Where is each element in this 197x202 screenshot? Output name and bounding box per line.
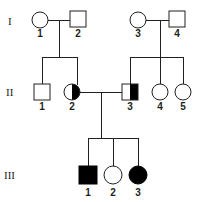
circle-symbol-unaffected — [130, 12, 146, 28]
square-symbol-affected — [79, 166, 97, 184]
individual-number-label: 3 — [135, 28, 141, 39]
circle-symbol-unaffected — [32, 12, 48, 28]
individual-i-2[interactable]: 2 — [70, 11, 86, 39]
circle-symbol-unaffected — [175, 84, 191, 100]
circle-symbol-unaffected — [104, 166, 122, 184]
circle-half-fill-carrier — [72, 84, 80, 100]
generation-label-ii: II — [6, 86, 14, 98]
individual-ii-5[interactable]: 5 — [175, 84, 191, 112]
pedigree-diagram: I II III 1 2 3 4 1 2 — [0, 0, 197, 202]
circle-symbol-affected — [129, 166, 147, 184]
generation-label-iii: III — [4, 169, 15, 181]
individual-number-label: 2 — [75, 28, 81, 39]
circle-symbol-unaffected — [152, 84, 168, 100]
pedigree-chart: I II III 1 2 3 4 1 2 — [0, 0, 197, 202]
square-symbol-unaffected — [70, 11, 86, 27]
generation-label-i: I — [8, 15, 12, 27]
individual-i-1[interactable]: 1 — [32, 12, 48, 39]
individual-i-3[interactable]: 3 — [130, 12, 146, 39]
individual-number-label: 1 — [39, 101, 45, 112]
square-half-fill-carrier — [130, 84, 138, 100]
individual-ii-4[interactable]: 4 — [152, 84, 168, 112]
individual-ii-1[interactable]: 1 — [34, 84, 50, 112]
individual-number-label: 2 — [110, 187, 116, 198]
individual-ii-2[interactable]: 2 — [64, 84, 80, 112]
individual-iii-3[interactable]: 3 — [129, 166, 147, 198]
individual-iii-1[interactable]: 1 — [79, 166, 97, 198]
individual-number-label: 3 — [127, 101, 133, 112]
individual-number-label: 4 — [174, 28, 180, 39]
individual-number-label: 1 — [85, 187, 91, 198]
square-symbol-unaffected — [34, 84, 50, 100]
generation-labels: I II III — [4, 15, 15, 181]
individual-number-label: 2 — [69, 101, 75, 112]
individual-number-label: 3 — [135, 187, 141, 198]
individual-number-label: 1 — [37, 28, 43, 39]
individual-number-label: 5 — [180, 101, 186, 112]
square-symbol-unaffected — [169, 11, 185, 27]
individual-iii-2[interactable]: 2 — [104, 166, 122, 198]
individual-ii-3[interactable]: 3 — [122, 84, 138, 112]
individual-number-label: 4 — [157, 101, 163, 112]
individual-i-4[interactable]: 4 — [169, 11, 185, 39]
